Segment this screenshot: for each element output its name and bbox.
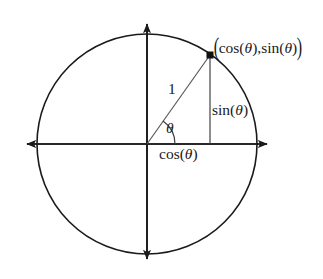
radius-segment <box>147 55 210 144</box>
coordinate-sin-text: sin( <box>261 40 284 56</box>
coordinate-cos-theta-glyph: θ <box>245 40 253 56</box>
radius-length-label: 1 <box>168 81 176 97</box>
close-paren-glyph: ) <box>297 38 302 57</box>
cosine-label-suffix: ) <box>192 145 197 162</box>
coordinate-cos-text: cos( <box>219 40 245 56</box>
cosine-label-prefix: cos( <box>159 145 185 162</box>
coordinate-cos-close: ), <box>252 40 261 56</box>
sine-label-theta-glyph: θ <box>235 101 243 118</box>
unit-circle-figure: (cos(θ), sin(θ)) sin(θ) cos(θ) 1 θ <box>0 0 323 279</box>
cosine-label: cos(θ) <box>159 146 198 162</box>
coordinate-label: (cos(θ), sin(θ)) <box>214 38 302 57</box>
open-paren-glyph: ( <box>214 38 219 57</box>
sine-label-suffix: ) <box>243 101 248 118</box>
sine-label: sin(θ) <box>212 102 248 118</box>
sine-label-prefix: sin( <box>212 101 235 118</box>
angle-theta-label: θ <box>166 120 174 136</box>
coordinate-sin-theta-glyph: θ <box>284 40 292 56</box>
terminal-point-marker <box>207 52 214 59</box>
